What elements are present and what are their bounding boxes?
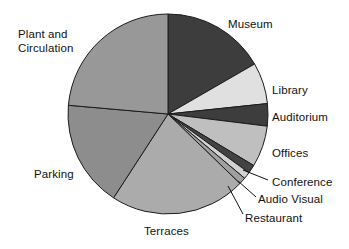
pie-slice-plant-and-circulation[interactable] — [68, 14, 168, 114]
pie-label-audio-visual: Audio Visual — [258, 193, 323, 206]
leader-line-restaurant — [228, 186, 243, 214]
pie-label-plant-and-circulation: Plant and Circulation — [18, 28, 73, 55]
pie-slices-group — [68, 14, 268, 214]
pie-label-parking: Parking — [34, 168, 74, 181]
pie-label-offices: Offices — [272, 147, 308, 160]
pie-label-museum: Museum — [228, 18, 273, 31]
pie-label-auditorium: Auditorium — [272, 111, 328, 124]
pie-chart: MuseumLibraryAuditoriumOfficesConference… — [0, 0, 349, 249]
pie-label-conference: Conference — [272, 176, 332, 189]
pie-label-library: Library — [272, 84, 308, 97]
pie-label-terraces: Terraces — [144, 225, 189, 238]
pie-label-restaurant: Restaurant — [245, 212, 302, 225]
leader-line-audio-visual — [238, 181, 256, 197]
